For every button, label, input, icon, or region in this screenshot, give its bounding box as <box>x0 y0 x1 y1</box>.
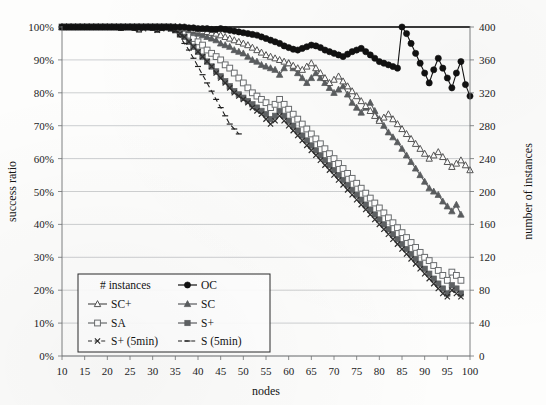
data-point-marker <box>444 75 450 81</box>
data-point-marker <box>95 320 101 326</box>
x-tick-label: 100 <box>462 365 479 377</box>
y-tick-label-right: 240 <box>479 153 496 165</box>
x-tick-label: 40 <box>193 365 205 377</box>
data-point-marker <box>431 67 437 73</box>
y-tick-label-right: 320 <box>479 87 496 99</box>
legend-label: S (5min) <box>201 335 242 348</box>
y-tick-label-right: 400 <box>479 21 496 33</box>
y-tick-label-left: 90% <box>34 54 54 66</box>
y-tick-label-left: 20% <box>34 284 54 296</box>
data-point-marker <box>458 211 464 217</box>
x-tick-label: 90 <box>419 365 431 377</box>
x-tick-label: 25 <box>125 365 137 377</box>
x-tick-label: 20 <box>102 365 114 377</box>
data-point-marker <box>413 50 419 56</box>
y-tick-label-right: 40 <box>479 317 491 329</box>
x-tick-label: 75 <box>351 365 363 377</box>
data-point-marker <box>367 99 373 105</box>
y-tick-label-right: 80 <box>479 284 491 296</box>
chart-figure: 0%10%20%30%40%50%60%70%80%90%100%0408012… <box>0 0 546 405</box>
x-tick-label: 60 <box>283 365 295 377</box>
y-tick-label-left: 10% <box>34 317 54 329</box>
legend-label: S+ <box>201 317 214 329</box>
y-tick-label-right: 160 <box>479 218 496 230</box>
data-point-marker <box>449 85 455 91</box>
y-tick-label-left: 80% <box>34 87 54 99</box>
x-tick-label: 35 <box>170 365 182 377</box>
data-point-marker <box>440 65 446 71</box>
y-tick-label-right: 360 <box>479 54 496 66</box>
y-tick-label-right: 200 <box>479 186 496 198</box>
y-tick-label-right: 0 <box>479 350 485 362</box>
legend-label: OC <box>201 279 217 291</box>
data-point-marker <box>403 30 409 36</box>
y-axis-title-left: success ratio <box>5 161 19 222</box>
y-tick-label-left: 100% <box>28 21 54 33</box>
data-point-marker <box>399 24 405 30</box>
x-tick-label: 45 <box>215 365 227 377</box>
data-point-marker <box>458 58 464 64</box>
data-point-marker <box>435 149 441 155</box>
x-axis-title: nodes <box>252 384 280 398</box>
data-point-marker <box>385 111 391 117</box>
x-tick-label: 80 <box>374 365 386 377</box>
y-tick-label-left: 60% <box>34 153 54 165</box>
data-point-marker <box>417 60 423 66</box>
x-tick-label: 55 <box>261 365 273 377</box>
data-point-marker <box>435 55 441 61</box>
data-point-marker <box>308 60 314 66</box>
x-tick-label: 65 <box>306 365 318 377</box>
data-point-marker <box>185 320 190 325</box>
y-tick-label-right: 120 <box>479 251 496 263</box>
data-point-marker <box>349 99 355 105</box>
y-tick-label-left: 30% <box>34 251 54 263</box>
data-point-marker <box>394 65 400 71</box>
success-ratio-chart: 0%10%20%30%40%50%60%70%80%90%100%0408012… <box>0 0 546 405</box>
series-line <box>62 27 470 170</box>
data-point-marker <box>458 157 464 163</box>
data-point-marker <box>453 70 459 76</box>
legend-label: SA <box>111 317 126 329</box>
data-point-marker <box>184 282 190 288</box>
data-series-layer <box>59 24 473 300</box>
series-oc <box>59 24 473 99</box>
y-tick-label-left: 0% <box>39 350 54 362</box>
x-tick-label: 50 <box>238 365 250 377</box>
data-point-marker <box>422 70 428 76</box>
x-tick-label: 85 <box>397 365 409 377</box>
x-tick-label: 15 <box>79 365 91 377</box>
legend-label: S+ (5min) <box>111 335 158 348</box>
y-tick-label-right: 280 <box>479 120 496 132</box>
legend-item--instances[interactable]: # instances <box>100 279 151 291</box>
data-point-marker <box>335 73 341 79</box>
series-line <box>62 27 239 134</box>
y-axis-title-right: number of instances <box>521 143 535 240</box>
data-point-marker <box>462 81 468 87</box>
x-tick-label: 70 <box>329 365 341 377</box>
x-tick-label: 30 <box>147 365 159 377</box>
data-point-marker <box>458 277 464 283</box>
legend-label: # instances <box>100 279 151 291</box>
y-tick-label-left: 70% <box>34 120 54 132</box>
x-tick-label: 10 <box>57 365 69 377</box>
y-tick-label-left: 50% <box>34 186 54 198</box>
data-point-marker <box>426 80 432 86</box>
y-tick-label-left: 40% <box>34 218 54 230</box>
chart-legend: # instancesOCSC+SCSAS+S+ (5min)S (5min) <box>78 274 270 352</box>
legend-label: SC <box>201 298 215 310</box>
data-point-marker <box>453 201 459 207</box>
x-tick-label: 95 <box>442 365 454 377</box>
data-point-marker <box>408 40 414 46</box>
legend-label: SC+ <box>111 298 132 310</box>
